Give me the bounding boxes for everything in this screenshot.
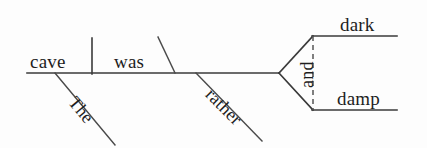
conjunction-label: and xyxy=(298,61,316,88)
verb-label: was xyxy=(114,52,144,71)
subject-label: cave xyxy=(30,52,66,71)
complement-lower-label: damp xyxy=(337,89,380,108)
complement-upper-label: dark xyxy=(340,15,375,34)
complement-slant-line xyxy=(158,37,175,73)
sentence-diagram: cave was The rather and dark damp xyxy=(0,0,427,148)
